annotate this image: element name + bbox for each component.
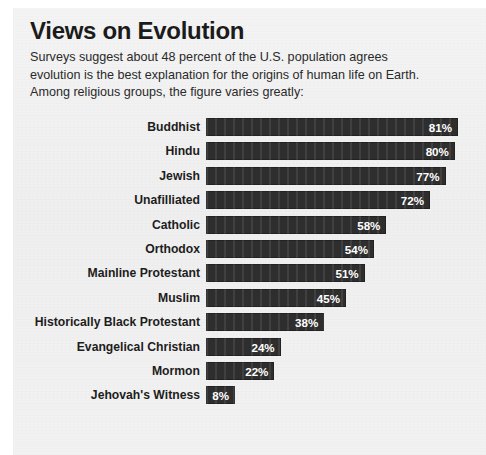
bar-category-label: Historically Black Protestant [35, 315, 200, 329]
bar: 22% [206, 362, 274, 380]
bar-row: Buddhist81% [0, 118, 486, 136]
bar-row: Unafilliated72% [0, 191, 486, 209]
bar: 24% [206, 338, 281, 356]
bar-category-label: Evangelical Christian [77, 340, 200, 354]
bar-row: Mainline Protestant51% [0, 264, 486, 282]
bar-value-label: 72% [401, 194, 424, 207]
bar: 38% [206, 313, 324, 331]
bar-row: Historically Black Protestant38% [0, 313, 486, 331]
bar: 51% [206, 264, 365, 282]
chart-subtitle: Surveys suggest about 48 percent of the … [30, 49, 450, 102]
subtitle-line-2: evolution is the best explanation for th… [30, 67, 450, 85]
bar-category-label: Orthodox [145, 242, 200, 256]
bar-value-label: 22% [245, 365, 268, 378]
bar-category-label: Mainline Protestant [88, 266, 200, 280]
bar-row: Jewish77% [0, 167, 486, 185]
bar-category-label: Mormon [152, 364, 200, 378]
bar-value-label: 58% [357, 218, 380, 231]
bar-category-label: Hindu [165, 144, 200, 158]
bar-chart: Buddhist81%Hindu80%Jewish77%Unafilliated… [0, 110, 486, 430]
bar-value-label: 45% [317, 291, 340, 304]
bar-row: Jehovah's Witness8% [0, 386, 486, 404]
bar-category-label: Jewish [159, 169, 200, 183]
bar: 8% [206, 386, 235, 404]
bar-value-label: 24% [251, 340, 274, 353]
bar-value-label: 38% [295, 316, 318, 329]
bar-category-label: Muslim [158, 291, 200, 305]
bar-value-label: 77% [416, 169, 439, 182]
bar-row: Mormon22% [0, 362, 486, 380]
bar: 54% [206, 240, 374, 258]
bar: 45% [206, 289, 346, 307]
bar: 77% [206, 167, 446, 185]
bar-category-label: Catholic [152, 218, 200, 232]
bar-category-label: Jehovah's Witness [91, 388, 200, 402]
bar: 58% [206, 216, 386, 234]
subtitle-line-3: Among religious groups, the figure varie… [30, 84, 450, 102]
bar: 72% [206, 191, 430, 209]
bar-value-label: 8% [212, 389, 229, 402]
bar: 80% [206, 142, 455, 160]
subtitle-line-1: Surveys suggest about 48 percent of the … [30, 49, 450, 67]
page-title: Views on Evolution [30, 17, 244, 45]
bar: 81% [206, 118, 458, 136]
bar-category-label: Buddhist [147, 120, 200, 134]
bar-value-label: 54% [345, 243, 368, 256]
bar-row: Evangelical Christian24% [0, 338, 486, 356]
chart-page: Views on Evolution Surveys suggest about… [0, 0, 486, 455]
bar-row: Muslim45% [0, 289, 486, 307]
bar-row: Catholic58% [0, 216, 486, 234]
bar-row: Hindu80% [0, 142, 486, 160]
bar-value-label: 81% [429, 121, 452, 134]
bar-value-label: 51% [335, 267, 358, 280]
bar-category-label: Unafilliated [134, 193, 200, 207]
bar-row: Orthodox54% [0, 240, 486, 258]
bar-value-label: 80% [426, 145, 449, 158]
